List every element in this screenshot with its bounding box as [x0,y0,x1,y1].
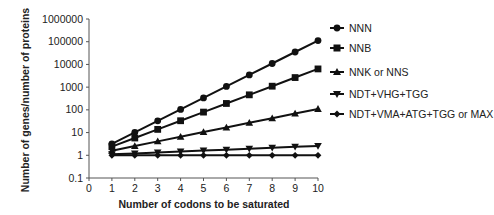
square-marker-icon [292,74,299,81]
diamond-marker-icon [315,152,322,159]
y-tick-label: 0.1 [68,172,83,184]
square-marker-icon [223,100,230,107]
diamond-marker-icon [269,152,276,159]
triangle-down-marker-icon [329,88,345,100]
x-tick-label: 8 [269,182,275,194]
legend-item-nnb: NNB [329,41,371,55]
legend-label: NNK or NNS [349,66,409,78]
square-marker-icon [269,83,276,90]
square-marker-icon [177,117,184,124]
y-tick-label: 1000 [60,81,84,93]
circle-marker-icon [177,106,184,113]
diamond-marker-icon [246,152,253,159]
x-axis-title: Number of codons to be saturated [119,198,290,210]
series-nnb [109,66,322,151]
circle-marker-icon [246,72,253,79]
x-tick-label: 5 [201,182,207,194]
x-tick-label: 3 [155,182,161,194]
diamond-marker-icon [223,152,230,159]
triangle-up-marker-icon [329,66,345,78]
square-marker-icon [246,91,253,98]
y-tick-label: 10000 [54,58,83,70]
legend-label: NDT+VHG+TGG [349,88,428,100]
legend-label: NDT+VMA+ATG+TGG or MAX [349,108,493,120]
y-axis-title: Number of genes/number of proteins [19,8,31,192]
circle-marker-icon [315,37,322,44]
circle-marker-icon [223,83,230,90]
square-marker-icon [200,109,207,116]
square-marker-icon [329,42,345,54]
square-marker-icon [154,126,161,133]
x-tick-label: 2 [132,182,138,194]
series-group [108,37,322,159]
x-tick-label: 10 [312,182,324,194]
circle-marker-icon [269,60,276,67]
diamond-marker-icon [329,108,345,120]
diamond-marker-icon [177,152,184,159]
legend-label: NNN [349,22,372,34]
legend-item-ndt-vhg-tgg: NDT+VHG+TGG [329,87,428,101]
x-tick-label: 4 [178,182,184,194]
y-tick-label: 100 [65,103,83,115]
circle-marker-icon [154,117,161,124]
legend-item-nnn: NNN [329,21,372,35]
square-marker-icon [315,66,322,73]
y-tick-label: 1 [77,149,83,161]
x-tick-label: 6 [223,182,229,194]
legend-label: NNB [349,42,371,54]
x-tick-label: 1 [109,182,115,194]
axes: 0.11101001000100001000001000000012345678… [42,13,324,195]
y-tick-label: 10 [71,126,83,138]
diamond-marker-icon [200,152,207,159]
y-tick-label: 1000000 [42,13,83,25]
square-marker-icon [131,135,138,142]
circle-marker-icon [200,95,207,102]
y-tick-label: 100000 [48,35,83,47]
legend-item-nnk: NNK or NNS [329,65,409,79]
legend-item-max: NDT+VMA+ATG+TGG or MAX [329,107,493,121]
x-tick-label: 7 [246,182,252,194]
circle-marker-icon [292,49,299,56]
diamond-marker-icon [292,152,299,159]
x-tick-label: 9 [292,182,298,194]
x-tick-label: 0 [86,182,92,194]
circle-marker-icon [329,22,345,34]
